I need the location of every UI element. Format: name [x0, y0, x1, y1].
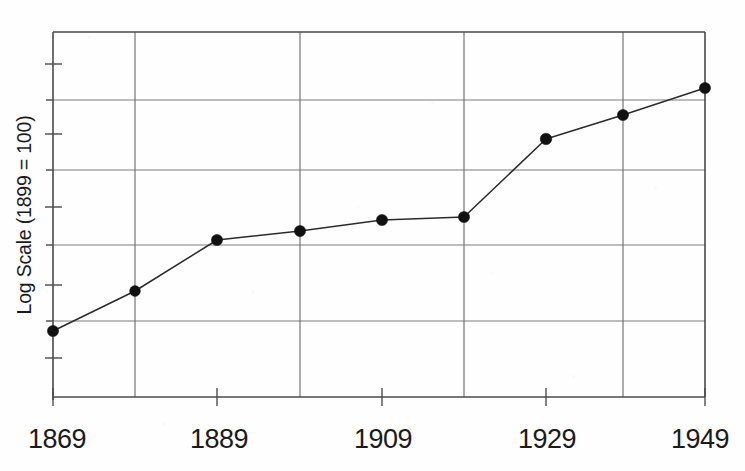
data-series [47, 82, 710, 336]
data-point-marker [47, 325, 58, 336]
xtick-label: 1889 [190, 424, 248, 454]
series-line-path [53, 88, 705, 331]
chart-figure: 1869 1889 1909 1929 1949 Log Scale (1899… [0, 0, 745, 471]
line-chart: 1869 1889 1909 1929 1949 Log Scale (1899… [0, 0, 745, 471]
xtick-label: 1869 [28, 424, 86, 454]
x-axis-tick-labels: 1869 1889 1909 1929 1949 [28, 424, 729, 454]
horizontal-gridlines [53, 100, 705, 321]
xtick-label: 1949 [671, 424, 729, 454]
xtick-label: 1909 [354, 424, 412, 454]
y-axis-major-ticks [46, 100, 53, 321]
xtick-label: 1929 [518, 424, 576, 454]
data-point-marker [130, 286, 141, 297]
data-point-marker [458, 211, 469, 222]
data-point-marker [294, 225, 305, 236]
y-axis-label-text: Log Scale (1899 = 100) [13, 116, 35, 315]
y-axis-label: Log Scale (1899 = 100) [13, 116, 35, 315]
data-point-marker [211, 234, 222, 245]
data-point-marker [699, 82, 710, 93]
data-point-marker [540, 133, 552, 145]
vertical-gridlines [135, 32, 623, 397]
data-point-marker [617, 109, 628, 120]
data-point-marker [376, 214, 387, 225]
